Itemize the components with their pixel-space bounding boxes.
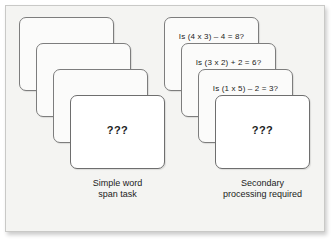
right-caption-line-2: processing required (205, 189, 320, 200)
left-card-recall: ??? (70, 95, 165, 169)
left-card-recall-label: ??? (71, 125, 164, 136)
figure-stage: PILL TREE LOCK ??? Simple word span task… (0, 0, 336, 245)
right-caption-line-1: Secondary (205, 178, 320, 189)
left-caption-line-2: span task (70, 189, 165, 200)
right-card-recall-label: ??? (216, 125, 309, 136)
right-card-tree-equation: Is (3 x 2) + 2 = 6? (182, 58, 275, 69)
right-card-lock-equation: Is (1 x 5) – 2 = 3? (199, 84, 292, 95)
right-card-pill-equation: Is (4 x 3) – 4 = 8? (165, 32, 258, 43)
right-panel-caption: Secondary processing required (205, 178, 320, 200)
left-panel-caption: Simple word span task (70, 178, 165, 200)
left-caption-line-1: Simple word (70, 178, 165, 189)
right-card-recall: ??? (215, 95, 310, 169)
figure-panel: PILL TREE LOCK ??? Simple word span task… (5, 5, 325, 232)
